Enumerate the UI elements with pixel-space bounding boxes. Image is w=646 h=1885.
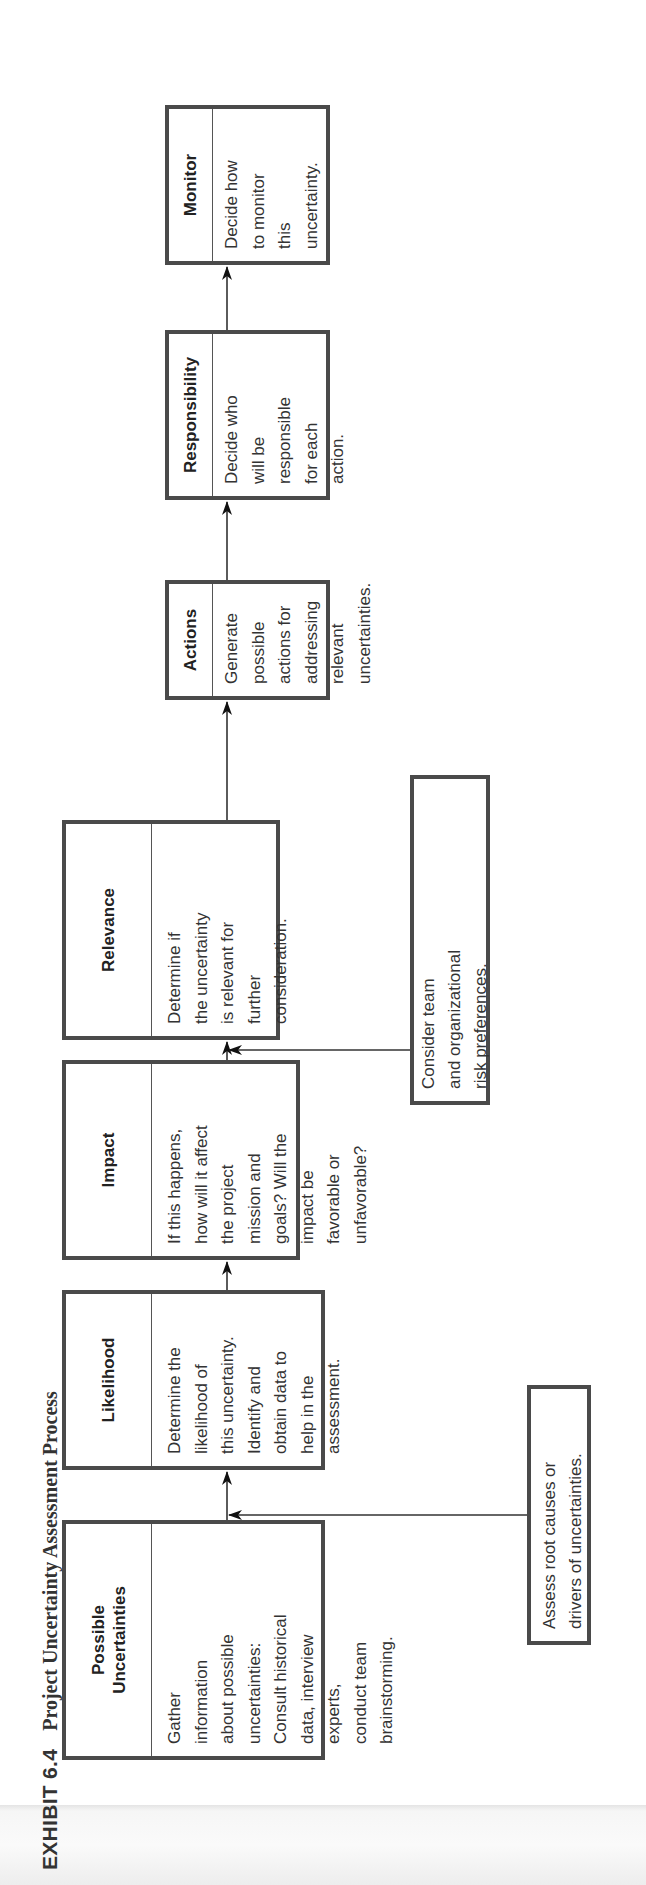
input-risk-preferences: Consider team and organizational risk pr…: [410, 775, 490, 1105]
step-title: Possible Uncertainties: [66, 1524, 152, 1756]
step-title: Monitor: [169, 109, 213, 261]
step-monitor: Monitor Decide how to monitor this uncer…: [165, 105, 330, 265]
step-relevance: Relevance Determine if the uncertainty i…: [62, 820, 280, 1040]
step-title: Responsibility: [169, 334, 213, 496]
input-root-causes: Assess root causes or drivers of uncerta…: [527, 1385, 591, 1645]
diagram-canvas: EXHIBIT 6.4 Project Uncertainty Assessme…: [0, 0, 646, 1885]
step-description: Determine if the uncertainty is relevant…: [152, 824, 301, 1036]
step-description: Determine the likelihood of this uncerta…: [152, 1294, 354, 1466]
step-likelihood: Likelihood Determine the likelihood of t…: [62, 1290, 325, 1470]
step-description: Decide who will be responsible for each …: [213, 334, 358, 496]
step-impact: Impact If this happens, how will it affe…: [62, 1060, 300, 1260]
step-possible-uncertainties: Possible Uncertainties Gather informatio…: [62, 1520, 325, 1760]
step-responsibility: Responsibility Decide who will be respon…: [165, 330, 330, 500]
step-description: Gather information about possible uncert…: [152, 1524, 407, 1756]
step-description: If this happens, how will it affect the …: [152, 1064, 380, 1256]
step-title: Actions: [169, 584, 213, 696]
step-description: Decide how to monitor this uncertainty.: [213, 109, 331, 261]
step-title: Likelihood: [66, 1294, 152, 1466]
step-title: Relevance: [66, 824, 152, 1036]
step-title: Impact: [66, 1064, 152, 1256]
step-description: Generate possible actions for addressing…: [213, 584, 384, 696]
step-actions: Actions Generate possible actions for ad…: [165, 580, 330, 700]
